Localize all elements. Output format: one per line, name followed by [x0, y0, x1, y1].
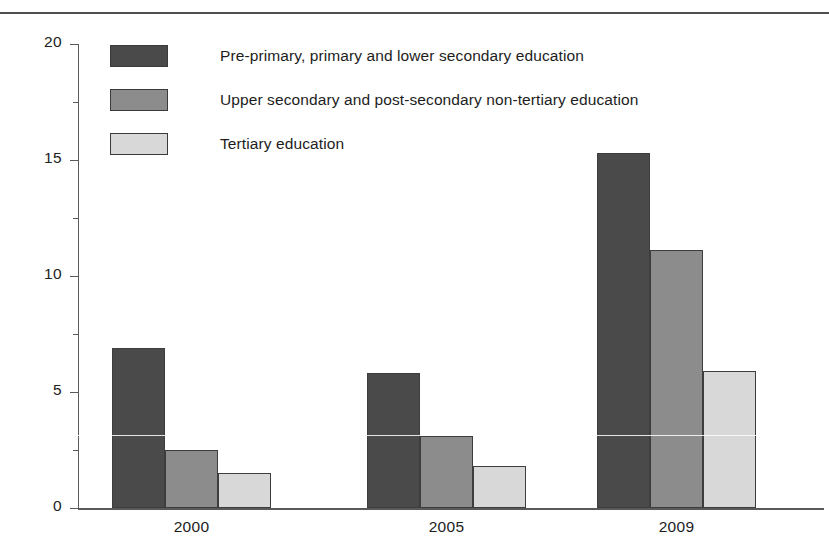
- x-tick-label-2005: 2005: [429, 518, 465, 536]
- bar-2000-series-2: [165, 450, 218, 508]
- legend-item: Tertiary education: [110, 126, 638, 162]
- top-divider-rule: [0, 12, 829, 14]
- bar-2005-series-3: [473, 466, 526, 508]
- x-tick-label-2000: 2000: [174, 518, 210, 536]
- y-tick-label: 10: [14, 265, 62, 283]
- y-tick-mark: [70, 392, 78, 393]
- x-tick-label-2009: 2009: [659, 518, 695, 536]
- legend-item: Pre-primary, primary and lower secondary…: [110, 38, 638, 74]
- y-tick-mark: [70, 160, 78, 161]
- y-tick-label: 15: [14, 149, 62, 167]
- legend-label-series-3: Tertiary education: [220, 135, 344, 153]
- legend-label-series-2: Upper secondary and post-secondary non-t…: [220, 91, 638, 109]
- y-minor-tick-mark: [73, 334, 78, 335]
- y-tick-mark: [70, 44, 78, 45]
- y-tick-label: 5: [14, 381, 62, 399]
- chart-figure: 05101520 Pre-primary, primary and lower …: [0, 0, 829, 549]
- y-axis-line: [78, 44, 79, 509]
- y-minor-tick-mark: [73, 218, 78, 219]
- x-axis-line: [78, 508, 824, 510]
- legend-item: Upper secondary and post-secondary non-t…: [110, 82, 638, 118]
- bar-2009-series-1: [597, 153, 650, 508]
- bar-2005-series-1: [367, 373, 420, 508]
- y-minor-tick-mark: [73, 450, 78, 451]
- chart-legend: Pre-primary, primary and lower secondary…: [110, 38, 638, 170]
- bar-2005-series-2: [420, 436, 473, 508]
- bar-2009-series-3: [703, 371, 756, 508]
- legend-swatch-series-2: [110, 89, 168, 111]
- y-tick-label: 20: [14, 33, 62, 51]
- bar-2000-series-1: [112, 348, 165, 508]
- bar-2009-series-2: [650, 250, 703, 508]
- bar-2000-series-3: [218, 473, 271, 508]
- legend-swatch-series-1: [110, 45, 168, 67]
- y-tick-mark: [70, 276, 78, 277]
- y-tick-mark: [70, 508, 78, 509]
- legend-label-series-1: Pre-primary, primary and lower secondary…: [220, 47, 584, 65]
- y-minor-tick-mark: [73, 102, 78, 103]
- y-tick-label: 0: [14, 497, 62, 515]
- legend-swatch-series-3: [110, 133, 168, 155]
